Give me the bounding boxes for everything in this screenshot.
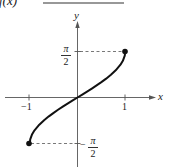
x-tick-label-neg1: −1 [21, 102, 32, 112]
pi-symbol: π [61, 44, 71, 56]
endpoint-dot-bottom [26, 141, 32, 147]
y-tick-label-neg-pi-half: π 2 [88, 136, 98, 159]
y-axis-label: y [74, 10, 79, 21]
denominator: 2 [61, 56, 71, 67]
endpoint-dot-top [122, 49, 128, 55]
function-label: f(x) [0, 0, 17, 7]
x-axis-arrow-icon [149, 95, 156, 99]
minus-sign: − [80, 140, 86, 150]
pi-symbol: π [88, 136, 98, 148]
denominator: 2 [88, 148, 98, 159]
y-axis-arrow-icon [75, 21, 79, 28]
x-axis-label: x [158, 91, 163, 102]
y-tick-label-pi-half: π 2 [61, 44, 71, 67]
x-tick-label-1: 1 [122, 102, 127, 112]
